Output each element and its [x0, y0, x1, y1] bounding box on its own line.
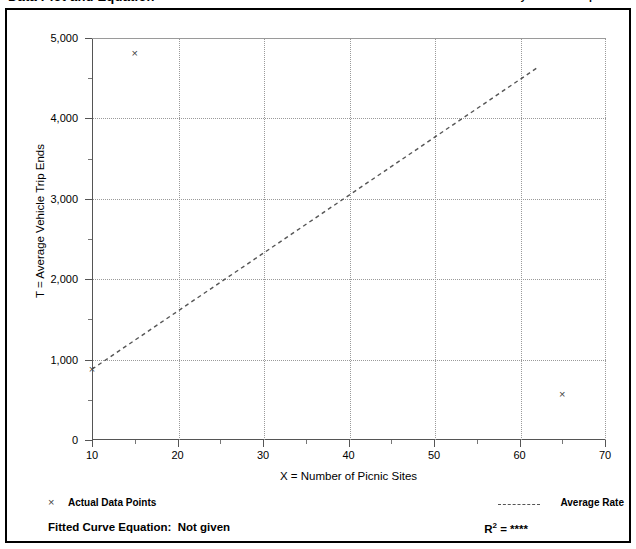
ytick-3000: [85, 199, 92, 200]
r-squared-value: R2 = ****: [484, 521, 528, 535]
x-axis-title: X = Number of Picnic Sites: [92, 470, 605, 482]
legend-dash-icon: [498, 504, 540, 505]
gridline-x-50: [435, 38, 436, 440]
legend-actual-data-label: Actual Data Points: [68, 497, 156, 508]
xtick-40: [349, 440, 350, 447]
xtick-60: [520, 440, 521, 447]
chart-legend: × Actual Data Points Average Rate: [0, 496, 636, 514]
xtick-minor-35: [306, 440, 307, 444]
xtick-30: [263, 440, 264, 447]
ytick-minor-2500: [88, 239, 92, 240]
plot-right-edge: [605, 38, 606, 440]
r-squared-result: = ****: [500, 523, 528, 535]
xtick-minor-15: [135, 440, 136, 444]
ytick-label-0: 0: [26, 435, 78, 446]
fitted-curve-equation: Fitted Curve Equation: Not given: [48, 521, 230, 533]
legend-average-rate-label: Average Rate: [560, 497, 624, 508]
data-point: ×: [87, 364, 98, 375]
xtick-label-60: 60: [500, 450, 540, 461]
plot-area: [92, 38, 605, 440]
xtick-label-40: 40: [329, 450, 369, 461]
xtick-label-30: 30: [243, 450, 283, 461]
ytick-label-5000: 5,000: [26, 33, 78, 44]
ytick-2000: [85, 279, 92, 280]
ytick-5000: [85, 38, 92, 39]
xtick-label-70: 70: [585, 450, 625, 461]
gridline-x-20: [179, 38, 180, 440]
ytick-minor-500: [88, 400, 92, 401]
gridline-x-60: [521, 38, 522, 440]
xtick-minor-25: [220, 440, 221, 444]
ytick-label-1000: 1,000: [26, 355, 78, 366]
xtick-label-50: 50: [414, 450, 454, 461]
chart-container: 5,000 4,000 3,000 2,000 1,000 0 10 20 30…: [0, 0, 636, 549]
ytick-minor-4500: [88, 78, 92, 79]
xtick-10: [92, 440, 93, 447]
xtick-70: [605, 440, 606, 447]
ytick-minor-1500: [88, 319, 92, 320]
data-point: ×: [129, 48, 140, 59]
ytick-minor-3500: [88, 159, 92, 160]
xtick-minor-55: [477, 440, 478, 444]
data-point: ×: [557, 389, 568, 400]
xtick-minor-45: [391, 440, 392, 444]
r-squared-exponent: 2: [493, 521, 497, 530]
ytick-0: [85, 440, 92, 441]
xtick-label-20: 20: [158, 450, 198, 461]
ytick-4000: [85, 118, 92, 119]
xtick-20: [178, 440, 179, 447]
ytick-1000: [85, 360, 92, 361]
xtick-minor-65: [562, 440, 563, 444]
gridline-x-30: [264, 38, 265, 440]
r-squared-prefix: R: [484, 523, 492, 535]
xtick-label-10: 10: [72, 450, 112, 461]
y-axis-title: T = Average Vehicle Trip Ends: [34, 91, 46, 351]
equation-row: Fitted Curve Equation: Not given R2 = **…: [0, 521, 636, 541]
xtick-50: [434, 440, 435, 447]
legend-x-marker-icon: ×: [48, 496, 54, 508]
gridline-x-40: [350, 38, 351, 440]
plot-top-edge: [92, 38, 605, 39]
